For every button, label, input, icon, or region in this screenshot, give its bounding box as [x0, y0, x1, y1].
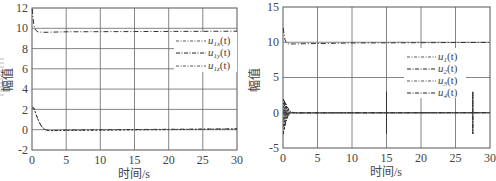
left-ytick-6: 6	[22, 62, 28, 76]
left-xtick-25: 25	[197, 153, 209, 167]
right-chart: 15 10 5 0 -5 0 5 10 15 20 25 30 时间/s 幅值	[247, 0, 496, 179]
figure: 12 10 8 6 4 2 0 -2 0 5 10 15 20 25 30 时间…	[0, 0, 496, 181]
left-ytick-2: 2	[22, 103, 28, 117]
right-xtick-20: 20	[415, 151, 427, 165]
left-legend: u1x(t) u1y(t) u1z(t)	[174, 32, 237, 73]
left-grid	[32, 8, 237, 150]
left-ytick-neg2: -2	[18, 143, 28, 157]
right-ytick-10: 10	[267, 35, 279, 49]
right-ytick-5: 5	[273, 70, 279, 84]
right-xtick-10: 10	[346, 151, 358, 165]
left-xtick-30: 30	[231, 153, 243, 167]
left-chart: 12 10 8 6 4 2 0 -2 0 5 10 15 20 25 30 时间…	[0, 1, 243, 181]
right-y-axis-label: 幅值	[247, 68, 262, 92]
right-ytick-15: 15	[267, 0, 279, 14]
left-xtick-0: 0	[29, 153, 35, 167]
right-xtick-30: 30	[484, 151, 496, 165]
right-ytick-neg5: -5	[269, 141, 279, 155]
right-xtick-5: 5	[315, 151, 321, 165]
right-legend: u1(t) u2(t) u3(t) u4(t)	[404, 48, 466, 100]
left-ytick-10: 10	[16, 21, 28, 35]
left-xtick-20: 20	[163, 153, 175, 167]
left-xtick-15: 15	[129, 153, 141, 167]
right-ytick-0: 0	[273, 106, 279, 120]
left-ytick-12: 12	[16, 1, 28, 15]
right-xtick-25: 25	[450, 151, 462, 165]
legend-label-u1y: u1y(t)	[208, 46, 231, 60]
left-xtick-10: 10	[94, 153, 106, 167]
left-ytick-0: 0	[22, 123, 28, 137]
legend-label-u1z: u1z(t)	[208, 59, 230, 73]
legend-label-u4: u4(t)	[438, 86, 458, 100]
left-ytick-8: 8	[22, 42, 28, 56]
left-ytick-4: 4	[22, 82, 28, 96]
right-xtick-15: 15	[381, 151, 393, 165]
right-x-axis-label: 时间/s	[370, 165, 402, 179]
right-xtick-0: 0	[280, 151, 286, 165]
left-y-axis-label: 幅值	[0, 68, 15, 92]
left-x-axis-label: 时间/s	[118, 167, 150, 181]
left-xtick-5: 5	[63, 153, 69, 167]
